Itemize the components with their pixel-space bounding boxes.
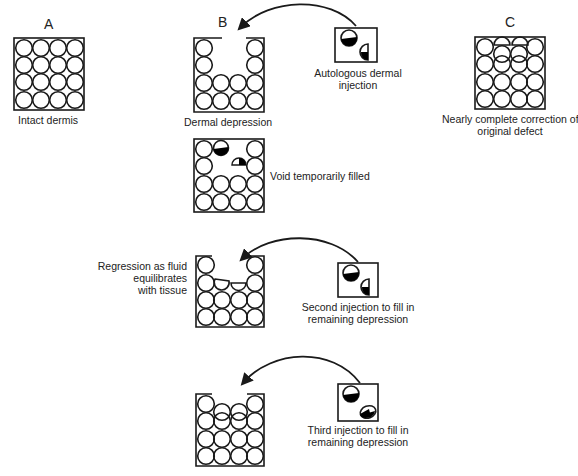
caption-injection1-line2: injection (308, 79, 408, 91)
panel-a-intact-dermis-grid (14, 38, 84, 110)
caption-injection1-line1: Autologous dermal (308, 67, 408, 79)
caption-dermal-depression: Dermal depression (184, 116, 272, 128)
panel-label-c: C (505, 14, 515, 30)
caption-injection3-line1: Third injection to fill in (296, 424, 420, 436)
injection-box-1 (335, 28, 377, 62)
caption-regression-line3: with tissue (60, 284, 187, 296)
caption-intact-dermis: Intact dermis (18, 114, 78, 126)
caption-void-temporarily-filled: Void temporarily filled (270, 170, 370, 182)
caption-second-injection: Second injection to fill in remaining de… (290, 301, 426, 325)
diagram-canvas (0, 0, 578, 476)
panel-b-dermal-depression-grid (194, 38, 264, 112)
arrow-injection-1 (241, 4, 356, 27)
caption-nearly-complete-correction: Nearly complete correction of original d… (442, 113, 578, 137)
panel-label-a: A (44, 16, 53, 32)
caption-c-line1: Nearly complete correction of (442, 113, 578, 125)
caption-regression-line1: Regression as fluid (60, 260, 187, 272)
void-filled-grid (194, 139, 264, 212)
caption-c-line2: original defect (442, 125, 578, 137)
caption-injection3-line2: remaining depression (296, 436, 420, 448)
injection-box-3 (338, 384, 378, 421)
caption-autologous-injection: Autologous dermal injection (308, 67, 408, 91)
caption-regression-line2: equilibrates (60, 272, 187, 284)
panel-label-b: B (218, 14, 227, 30)
arrow-injection-3 (244, 357, 360, 383)
panel-c-corrected-grid (475, 37, 545, 109)
caption-injection2-line2: remaining depression (290, 313, 426, 325)
caption-regression: Regression as fluid equilibrates with ti… (60, 260, 187, 296)
caption-third-injection: Third injection to fill in remaining dep… (296, 424, 420, 448)
final-grid (196, 394, 264, 466)
injection-box-2 (338, 263, 378, 297)
caption-injection2-line1: Second injection to fill in (290, 301, 426, 313)
regression-grid (196, 256, 264, 327)
